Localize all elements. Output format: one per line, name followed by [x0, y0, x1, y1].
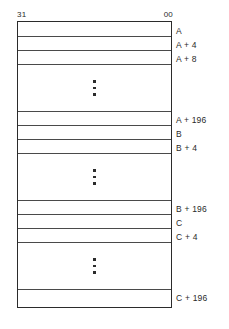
bit-label-lsb: 00 [164, 9, 173, 20]
bit-label-msb: 31 [17, 9, 26, 20]
memory-word-row [18, 290, 171, 304]
address-label: B + 4 [176, 143, 197, 153]
memory-word-row [18, 112, 171, 126]
address-label: A [176, 26, 182, 36]
memory-gap-row [18, 65, 171, 112]
address-label: B + 196 [176, 204, 207, 214]
address-label-column: AA + 4A + 8A + 196BB + 4B + 196CC + 4C +… [176, 21, 229, 308]
memory-word-row [18, 140, 171, 154]
memory-word-row [18, 215, 171, 229]
address-label: B [176, 129, 182, 139]
vertical-ellipsis-icon [93, 258, 95, 274]
address-label: C + 4 [176, 232, 198, 242]
address-label: C + 196 [176, 293, 207, 303]
memory-word-row [18, 229, 171, 243]
vertical-ellipsis-icon [93, 80, 95, 96]
address-label: A + 8 [176, 54, 197, 64]
bit-position-header: 31 00 [17, 9, 173, 20]
memory-word-row [18, 126, 171, 140]
memory-word-row [18, 51, 171, 65]
memory-word-row [18, 23, 171, 37]
memory-word-row [18, 201, 171, 215]
memory-gap-row [18, 154, 171, 201]
address-label: A + 196 [176, 115, 206, 125]
address-label: A + 4 [176, 40, 197, 50]
memory-word-row [18, 37, 171, 51]
memory-box [17, 21, 172, 308]
address-label: C [176, 218, 182, 228]
vertical-ellipsis-icon [93, 169, 95, 185]
memory-layout-figure: 31 00 AA + 4A + 8A + 196BB + 4B + 196CC … [0, 0, 229, 329]
memory-gap-row [18, 243, 171, 290]
